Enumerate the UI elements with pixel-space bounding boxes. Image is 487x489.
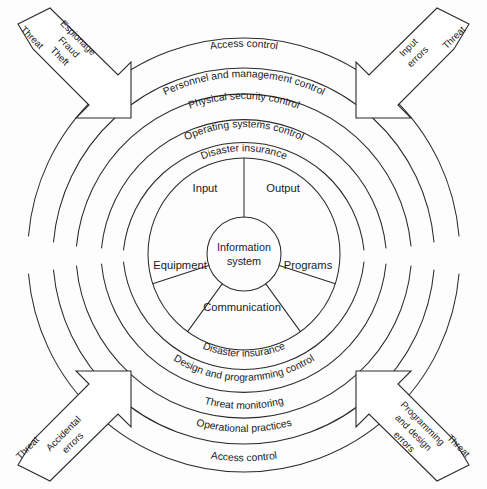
ring-label-physical-security-control: Physical security control [187, 90, 301, 111]
ring-label-threat-monitoring: Threat monitoring [204, 395, 285, 411]
ring-label-operating-systems-control: Operating systems control [182, 118, 305, 142]
ring-label-operational-practices: Operational practices [195, 417, 292, 434]
segment-wheel [148, 158, 340, 350]
segment-label-input: Input [193, 182, 219, 194]
threat-arrow-top-left-shape [18, 8, 131, 118]
ring-label-disaster-insurance-bottom: Disaster insurance [202, 340, 287, 359]
segment-label-programs: Programs [284, 259, 333, 271]
segment-label-equipment: Equipment [153, 259, 207, 271]
lower-ring-arcs [29, 262, 460, 472]
core-label-line1: Information [217, 241, 271, 253]
upper-ring-labels: Access control Personnel and management … [161, 38, 327, 162]
threat-arrow-top-right: Input errors Threat [356, 8, 469, 118]
threat-arrow-bottom-right: Programming and design errors Threat [356, 371, 473, 481]
core-label: Information system [217, 241, 271, 267]
threat-arrow-top-left: Espionage Fraud Theft Threat [18, 8, 131, 118]
ring-label-access-control-top: Access control [209, 38, 279, 52]
core-circle [207, 217, 281, 291]
diagram-canvas: Access control Personnel and management … [0, 0, 487, 489]
security-rings-diagram: Access control Personnel and management … [0, 0, 487, 489]
segment-label-output: Output [266, 182, 300, 194]
ring-label-access-control-bottom: Access control [210, 450, 277, 464]
segment-label-communication: Communication [203, 301, 281, 313]
core-label-line2: system [227, 255, 261, 267]
